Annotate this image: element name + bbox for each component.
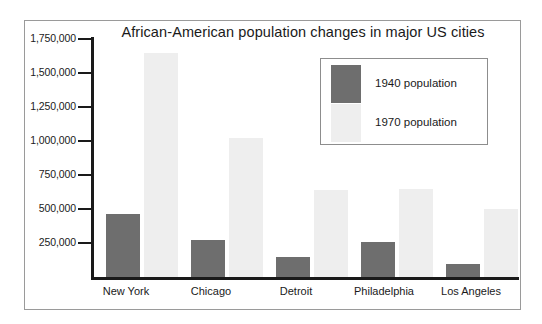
bar-1940-detroit xyxy=(276,257,310,277)
x-tick-label-detroit: Detroit xyxy=(256,285,336,297)
y-tick-label: 1,250,000 xyxy=(4,100,76,112)
y-tick-label: 750,000 xyxy=(4,168,76,180)
x-tick-label-los-angeles: Los Angeles xyxy=(426,285,516,297)
bar-1970-philadelphia xyxy=(399,189,433,277)
bar-1940-los-angeles xyxy=(446,264,480,277)
y-axis-tick xyxy=(78,242,92,244)
bar-1970-chicago xyxy=(229,138,263,277)
legend-label-1940: 1940 population xyxy=(375,77,457,89)
bar-1940-new-york xyxy=(106,214,140,277)
y-axis-tick xyxy=(78,140,92,142)
x-tick-label-chicago: Chicago xyxy=(171,285,251,297)
y-axis-tick xyxy=(78,38,92,40)
x-tick-label-new-york: New York xyxy=(86,285,166,297)
bar-1940-chicago xyxy=(191,240,225,277)
y-tick-label: 1,750,000 xyxy=(4,32,76,44)
y-tick-label: 1,000,000 xyxy=(4,134,76,146)
bar-group-new-york xyxy=(106,38,180,277)
y-axis-tick xyxy=(78,174,92,176)
x-axis-line xyxy=(91,277,519,280)
bar-1970-detroit xyxy=(314,190,348,277)
y-tick-label: 1,500,000 xyxy=(4,66,76,78)
chart-legend: 1940 population 1970 population xyxy=(320,58,488,145)
y-tick-label: 250,000 xyxy=(4,236,76,248)
chart-figure: African-American population changes in m… xyxy=(0,0,542,324)
legend-swatch-1970 xyxy=(331,104,361,142)
legend-row-1940: 1940 population xyxy=(331,65,481,103)
legend-label-1970: 1970 population xyxy=(375,116,457,128)
legend-row-1970: 1970 population xyxy=(331,104,481,142)
bar-1970-new-york xyxy=(144,53,178,277)
bar-group-chicago xyxy=(191,38,265,277)
y-axis-tick xyxy=(78,72,92,74)
bar-1940-philadelphia xyxy=(361,242,395,277)
x-tick-label-philadelphia: Philadelphia xyxy=(339,285,429,297)
bar-1970-los-angeles xyxy=(484,209,518,277)
y-tick-label: 500,000 xyxy=(4,202,76,214)
y-axis-labels: 1,750,000 1,500,000 1,250,000 1,000,000 … xyxy=(0,0,76,324)
legend-swatch-1940 xyxy=(331,65,361,103)
y-axis-tick xyxy=(78,208,92,210)
y-axis-tick xyxy=(78,106,92,108)
